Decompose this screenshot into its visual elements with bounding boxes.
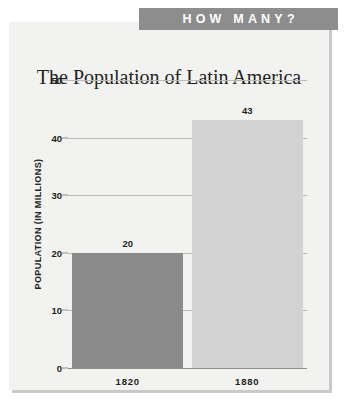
y-axis-tick-mark [62, 368, 68, 369]
y-axis-tick-label: 20 [51, 247, 62, 258]
how-many-banner-label: HOW MANY? [178, 12, 298, 26]
x-axis-tick-label-1820: 1820 [72, 376, 183, 387]
gridline [68, 80, 307, 81]
y-axis-title-label: POPULATION (IN MILLIONS) [33, 159, 43, 290]
bar-value-label: 43 [192, 105, 303, 116]
x-axis-tick-label-1880: 1880 [192, 376, 303, 387]
y-axis-tick-label: 10 [51, 305, 62, 316]
y-axis-tick-label: 0 [57, 363, 62, 374]
y-axis-tick-label: 30 [51, 190, 62, 201]
chart-card: The Population of Latin America POPULATI… [9, 22, 329, 390]
how-many-population-chart-figure: The Population of Latin America POPULATI… [0, 0, 347, 401]
y-axis-tick-mark [62, 137, 68, 138]
y-axis-tick-label: 50 [51, 75, 62, 86]
y-axis-tick-mark [62, 252, 68, 253]
y-axis-tick-mark [62, 310, 68, 311]
y-axis-title: POPULATION (IN MILLIONS) [31, 80, 45, 368]
y-axis-tick-mark [62, 195, 68, 196]
plot-area: 01020304050201820431880 [68, 80, 307, 368]
how-many-banner: HOW MANY? [139, 8, 338, 30]
bar-1820[interactable]: 20 [72, 253, 183, 368]
x-axis-baseline [68, 368, 307, 369]
y-axis-tick-mark [62, 80, 68, 81]
bar-value-label: 20 [72, 238, 183, 249]
y-axis-tick-label: 40 [51, 132, 62, 143]
bar-1880[interactable]: 43 [192, 120, 303, 368]
